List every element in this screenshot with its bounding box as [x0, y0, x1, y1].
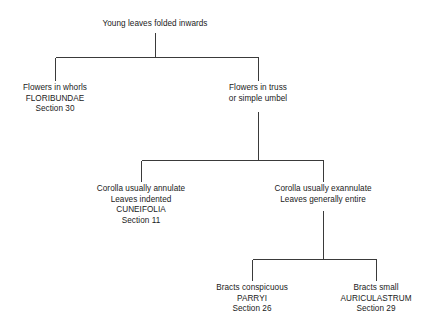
node-auriculastrum-line-1: Bracts small — [340, 283, 411, 294]
node-flowers-in-truss-line-1: Flowers in truss — [229, 83, 287, 94]
node-cuneifolia-line-1: Corolla usually annulate — [97, 184, 185, 195]
node-floribundae: Flowers in whorls FLORIBUNDAE Section 30 — [23, 83, 87, 115]
node-cuneifolia-line-2: Leaves indented — [97, 195, 185, 206]
node-auriculastrum-line-3: Section 29 — [340, 304, 411, 315]
node-parryi-line-2: PARRYI — [216, 294, 288, 305]
node-parryi-line-1: Bracts conspicuous — [216, 283, 288, 294]
node-auriculastrum-line-2: AURICULASTRUM — [340, 294, 411, 305]
node-corolla-exannulate-line-1: Corolla usually exannulate — [274, 184, 371, 195]
node-cuneifolia-line-3: CUNEIFOLIA — [97, 205, 185, 216]
node-flowers-in-truss: Flowers in truss or simple umbel — [229, 83, 287, 104]
node-parryi: Bracts conspicuous PARRYI Section 26 — [216, 283, 288, 315]
node-floribundae-line-1: Flowers in whorls — [23, 83, 87, 94]
node-auriculastrum: Bracts small AURICULASTRUM Section 29 — [340, 283, 411, 315]
node-cuneifolia-line-4: Section 11 — [97, 216, 185, 227]
node-root: Young leaves folded inwards — [102, 19, 207, 30]
node-floribundae-line-3: Section 30 — [23, 104, 87, 115]
node-corolla-exannulate-line-2: Leaves generally entire — [274, 195, 371, 206]
taxonomic-key-diagram: Young leaves folded inwards Flowers in w… — [0, 0, 434, 335]
node-floribundae-line-2: FLORIBUNDAE — [23, 94, 87, 105]
node-cuneifolia: Corolla usually annulate Leaves indented… — [97, 184, 185, 226]
node-parryi-line-3: Section 26 — [216, 304, 288, 315]
node-corolla-exannulate: Corolla usually exannulate Leaves genera… — [274, 184, 371, 205]
node-flowers-in-truss-line-2: or simple umbel — [229, 94, 287, 105]
node-root-line-1: Young leaves folded inwards — [102, 19, 207, 30]
